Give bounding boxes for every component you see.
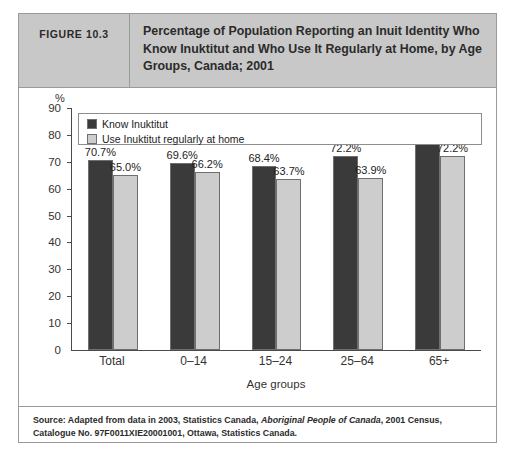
y-axis-tick-label: 20 bbox=[27, 290, 61, 302]
y-axis-tick-mark bbox=[67, 242, 72, 243]
source-prefix: Source: Adapted from data in 2003, Stati… bbox=[33, 415, 261, 425]
bar-know-inuktitut bbox=[333, 156, 358, 350]
chart-area: % 0102030405060708090 Know Inuktitut Use… bbox=[19, 88, 496, 406]
x-axis-title: Age groups bbox=[71, 378, 481, 390]
y-axis-tick-label: 50 bbox=[27, 210, 61, 222]
x-axis-tick-label: 15–24 bbox=[259, 354, 292, 368]
y-axis-tick-mark bbox=[67, 323, 72, 324]
bar-know-inuktitut bbox=[88, 160, 113, 350]
bar-know-inuktitut bbox=[252, 166, 277, 350]
bar-value-label: 63.9% bbox=[355, 164, 386, 176]
y-axis-tick-mark bbox=[67, 135, 72, 136]
chart-legend: Know Inuktitut Use Inuktitut regularly a… bbox=[78, 113, 482, 145]
bar-know-inuktitut bbox=[170, 163, 195, 350]
y-axis-tick-label: 60 bbox=[27, 183, 61, 195]
figure-container: FIGURE 10.3 Percentage of Population Rep… bbox=[18, 13, 497, 443]
x-axis-tick-label: 0–14 bbox=[180, 354, 207, 368]
source-italic-title: Aboriginal People of Canada bbox=[261, 415, 381, 425]
y-axis-tick-label: 90 bbox=[27, 102, 61, 114]
bar-value-label: 66.2% bbox=[192, 158, 223, 170]
legend-label-series-2: Use Inuktitut regularly at home bbox=[102, 134, 244, 145]
y-axis-tick-mark bbox=[67, 108, 72, 109]
bar-value-label: 65.0% bbox=[110, 161, 141, 173]
y-axis-tick-label: 10 bbox=[27, 317, 61, 329]
figure-number-label: FIGURE 10.3 bbox=[19, 14, 130, 87]
legend-swatch-series-1 bbox=[87, 119, 97, 129]
bar-use-inuktitut-home bbox=[276, 179, 301, 350]
legend-label-series-1: Know Inuktitut bbox=[102, 119, 168, 130]
bar-use-inuktitut-home bbox=[113, 175, 138, 350]
x-axis-tick-label: 65+ bbox=[429, 354, 449, 368]
bar-value-label: 70.7% bbox=[85, 146, 116, 158]
y-axis-tick-mark bbox=[67, 269, 72, 270]
y-axis-tick-mark bbox=[67, 162, 72, 163]
x-axis-tick-label: 25–64 bbox=[341, 354, 374, 368]
bar-use-inuktitut-home bbox=[440, 156, 465, 350]
source-note: Source: Adapted from data in 2003, Stati… bbox=[19, 406, 496, 442]
y-axis-tick-label: 80 bbox=[27, 129, 61, 141]
bar-value-label: 63.7% bbox=[273, 165, 304, 177]
legend-item-use-inuktitut-home: Use Inuktitut regularly at home bbox=[87, 133, 481, 145]
y-axis-tick-mark bbox=[67, 189, 72, 190]
figure-header: FIGURE 10.3 Percentage of Population Rep… bbox=[19, 14, 496, 88]
plot-region: Know Inuktitut Use Inuktitut regularly a… bbox=[71, 108, 481, 351]
bar-know-inuktitut bbox=[415, 139, 440, 350]
y-axis-tick-label: 40 bbox=[27, 236, 61, 248]
x-axis-tick-label: Total bbox=[99, 354, 124, 368]
figure-title: Percentage of Population Reporting an In… bbox=[130, 14, 496, 87]
x-axis-tick-labels: Total0–1415–2425–6465+ bbox=[71, 354, 481, 374]
bar-use-inuktitut-home bbox=[195, 172, 220, 350]
y-axis-tick-labels: 0102030405060708090 bbox=[27, 88, 61, 406]
bar-value-label: 68.4% bbox=[248, 152, 279, 164]
legend-swatch-series-2 bbox=[87, 134, 97, 144]
legend-item-know-inuktitut: Know Inuktitut bbox=[87, 118, 481, 130]
y-axis-tick-label: 0 bbox=[27, 344, 61, 356]
y-axis-tick-mark bbox=[67, 296, 72, 297]
y-axis-tick-label: 30 bbox=[27, 263, 61, 275]
y-axis-tick-mark bbox=[67, 216, 72, 217]
bar-use-inuktitut-home bbox=[358, 178, 383, 350]
y-axis-tick-label: 70 bbox=[27, 156, 61, 168]
